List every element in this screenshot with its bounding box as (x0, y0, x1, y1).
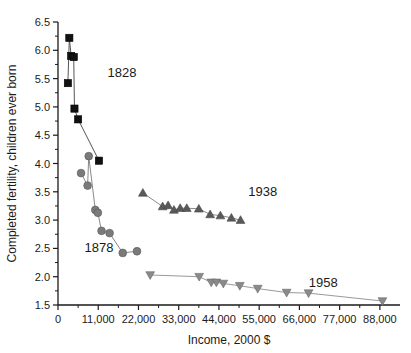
y-tick-label: 3.0 (35, 214, 50, 226)
data-point-1958[interactable] (195, 273, 204, 281)
data-point-1828[interactable] (64, 80, 71, 87)
data-point-1938[interactable] (138, 189, 147, 197)
data-point-1828[interactable] (70, 53, 77, 60)
x-tick-label: 66,000 (283, 313, 317, 325)
x-axis-title: Income, 2000 $ (188, 333, 271, 347)
series-line-1958 (150, 275, 382, 301)
y-tick-label: 6.5 (35, 16, 50, 28)
chart-container: 011,00022,00033,00044,00055,00066,00077,… (0, 0, 411, 353)
y-tick-label: 2.5 (35, 242, 50, 254)
series-line-1878 (81, 156, 137, 253)
data-point-1828[interactable] (71, 105, 78, 112)
data-point-1938[interactable] (182, 204, 191, 212)
data-point-1878[interactable] (77, 169, 85, 177)
series-line-1938 (143, 193, 241, 220)
data-point-1878[interactable] (106, 229, 114, 237)
series-annotation-1938: 1938 (248, 184, 277, 199)
series-annotation-1828: 1828 (108, 65, 137, 80)
data-point-1878[interactable] (119, 249, 127, 257)
data-point-1938[interactable] (206, 210, 215, 218)
x-tick-label: 11,000 (82, 313, 115, 325)
x-tick-label: 77,000 (323, 313, 357, 325)
y-tick-label: 3.5 (35, 186, 50, 198)
y-tick-label: 4.0 (35, 158, 50, 170)
data-point-1938[interactable] (164, 201, 173, 209)
series-1958: 1958 (146, 272, 387, 306)
y-axis-title: Completed fertility, children ever born (5, 65, 19, 263)
y-tick-label: 6.0 (35, 44, 50, 56)
data-point-1828[interactable] (95, 157, 102, 164)
x-tick-label: 55,000 (242, 313, 276, 325)
y-tick-label: 2.0 (35, 271, 50, 283)
data-point-1878[interactable] (94, 209, 102, 217)
data-point-1878[interactable] (84, 182, 92, 190)
y-tick-label: 5.5 (35, 73, 50, 85)
data-point-1878[interactable] (133, 247, 141, 255)
x-tick-label: 0 (55, 313, 61, 325)
x-tick-label: 22,000 (122, 313, 156, 325)
x-tick-label: 44,000 (202, 313, 236, 325)
data-point-1878[interactable] (85, 152, 93, 160)
x-tick-label: 88,000 (363, 313, 397, 325)
x-tick-label: 33,000 (162, 313, 196, 325)
data-point-1958[interactable] (378, 298, 387, 306)
fertility-income-scatter-chart: 011,00022,00033,00044,00055,00066,00077,… (0, 0, 411, 353)
y-tick-label: 1.5 (35, 299, 50, 311)
series-1938: 1938 (138, 184, 277, 223)
data-point-1878[interactable] (98, 227, 106, 235)
y-tick-label: 5.0 (35, 101, 50, 113)
series-1878: 1878 (77, 152, 141, 257)
y-tick-label: 4.5 (35, 129, 50, 141)
data-point-1828[interactable] (75, 116, 82, 123)
series-annotation-1958: 1958 (309, 275, 338, 290)
series-annotation-1878: 1878 (85, 240, 114, 255)
data-point-1828[interactable] (66, 34, 73, 41)
series-1828: 1828 (64, 34, 136, 164)
